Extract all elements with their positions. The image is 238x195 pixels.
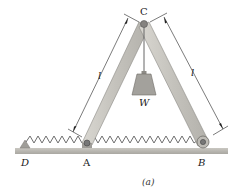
ground-bar (15, 148, 228, 154)
label-d: D (20, 157, 29, 168)
weight-block (132, 74, 156, 95)
spring-ab (90, 136, 198, 143)
dimension-tick-right-bottom (213, 126, 228, 135)
label-length-right: l (191, 67, 194, 78)
pin-c-icon (141, 21, 148, 28)
pin-a-icon (84, 140, 90, 146)
support-d-icon (20, 140, 30, 148)
label-length-left: l (98, 70, 101, 81)
label-w: W (139, 97, 150, 108)
label-b: B (197, 157, 205, 168)
arrow-right-bottom-icon (219, 123, 223, 129)
spring-da (26, 136, 86, 143)
truss-diagram: C W D A B l l (a) (0, 0, 238, 195)
dimension-tick-left-top (124, 14, 139, 22)
arrow-right-top-icon (164, 17, 167, 24)
label-a: A (82, 157, 91, 168)
weight-hook (142, 71, 147, 74)
figure-caption: (a) (142, 177, 155, 187)
label-c: C (140, 6, 148, 17)
pin-b-icon (200, 139, 205, 144)
